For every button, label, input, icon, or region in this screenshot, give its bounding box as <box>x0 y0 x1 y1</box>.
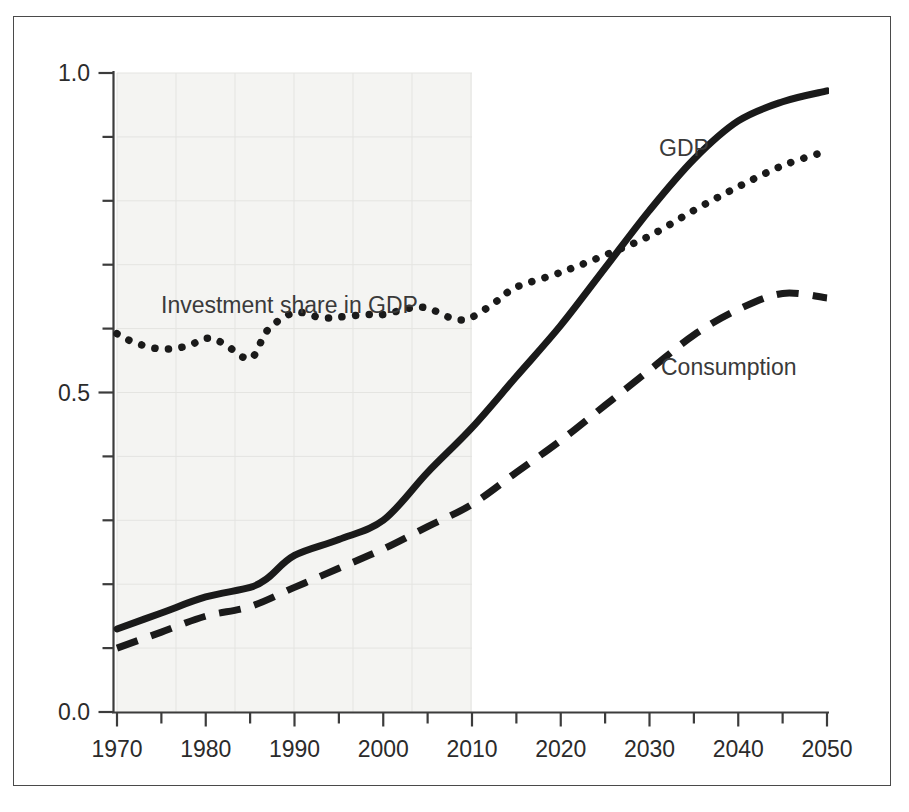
annotation-consumption: Consumption <box>661 354 797 380</box>
x-axis-ticks <box>117 713 827 727</box>
x-tick-label: 2050 <box>801 736 852 762</box>
figure-container: 1.00.50.0 197019801990200020102020203020… <box>0 0 909 812</box>
y-tick-label: 0.0 <box>58 699 90 725</box>
x-tick-label: 2010 <box>446 736 497 762</box>
x-tick-label: 2030 <box>624 736 675 762</box>
x-tick-label: 1980 <box>180 736 231 762</box>
x-tick-label: 2000 <box>358 736 409 762</box>
annotation-investment-share: Investment share in GDP <box>161 292 418 318</box>
x-tick-label: 2040 <box>713 736 764 762</box>
x-tick-label: 2020 <box>535 736 586 762</box>
x-tick-label: 1970 <box>91 736 142 762</box>
y-tick-label: 1.0 <box>58 60 90 86</box>
annotation-gdp: GDP <box>659 135 709 161</box>
x-axis-tick-labels: 197019801990200020102020203020402050 <box>91 736 852 762</box>
y-axis-ticks <box>99 73 114 712</box>
chart-canvas: 1.00.50.0 197019801990200020102020203020… <box>0 0 909 812</box>
x-tick-label: 1990 <box>269 736 320 762</box>
y-tick-label: 0.5 <box>58 380 90 406</box>
y-axis-tick-labels: 1.00.50.0 <box>58 60 90 725</box>
